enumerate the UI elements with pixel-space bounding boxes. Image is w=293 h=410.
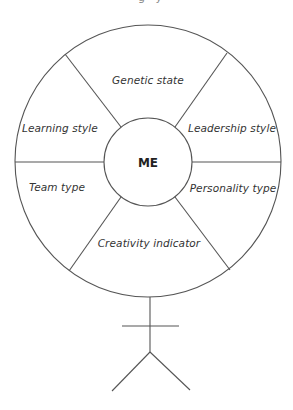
- spoke-upper-left: [65, 54, 121, 127]
- segment-label-leadership-style: Leadership style: [188, 122, 276, 134]
- personal-profile-wheel-diagram: g y ME Genetic state Learning style Lead…: [0, 0, 293, 410]
- segment-label-creativity-indicator: Creativity indicator: [98, 237, 201, 249]
- spoke-lower-left: [69, 197, 121, 271]
- stick-figure-right-leg: [150, 352, 190, 390]
- segment-label-team-type: Team type: [29, 181, 85, 193]
- segment-label-personality-type: Personality type: [190, 182, 277, 194]
- segment-label-genetic-state: Genetic state: [112, 74, 184, 86]
- stick-figure: [112, 297, 190, 391]
- spoke-upper-right: [175, 53, 227, 127]
- center-label: ME: [138, 156, 158, 170]
- cutoff-caption-remnant: g y: [138, 0, 162, 4]
- spoke-lower-right: [175, 197, 230, 270]
- stick-figure-left-leg: [112, 352, 150, 391]
- segment-label-learning-style: Learning style: [22, 122, 98, 134]
